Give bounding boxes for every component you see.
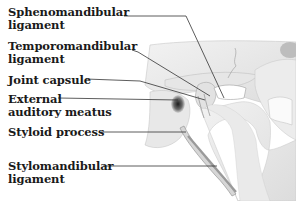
label-line: ligament: [8, 19, 129, 32]
label-line: Sphenomandibular: [8, 6, 129, 19]
label-styloid-process: Styloid process: [8, 126, 104, 139]
label-line: ligament: [8, 173, 114, 186]
label-line: Joint capsule: [8, 74, 91, 87]
external-auditory-meatus-opening: [171, 95, 185, 113]
label-sphenomandibular-ligament: Sphenomandibular ligament: [8, 6, 129, 31]
tmj-diagram: Sphenomandibular ligament Temporomandibu…: [0, 0, 296, 201]
label-line: Temporomandibular: [8, 40, 137, 53]
label-stylomandibular-ligament: Stylomandibular ligament: [8, 160, 114, 185]
label-line: auditory meatus: [8, 106, 112, 119]
label-line: Stylomandibular: [8, 160, 114, 173]
label-line: Styloid process: [8, 126, 104, 139]
label-line: External: [8, 93, 112, 106]
label-joint-capsule: Joint capsule: [8, 74, 91, 87]
label-line: ligament: [8, 53, 137, 66]
label-external-auditory-meatus: External auditory meatus: [8, 93, 112, 118]
label-temporomandibular-ligament: Temporomandibular ligament: [8, 40, 137, 65]
teeth: [268, 97, 292, 125]
